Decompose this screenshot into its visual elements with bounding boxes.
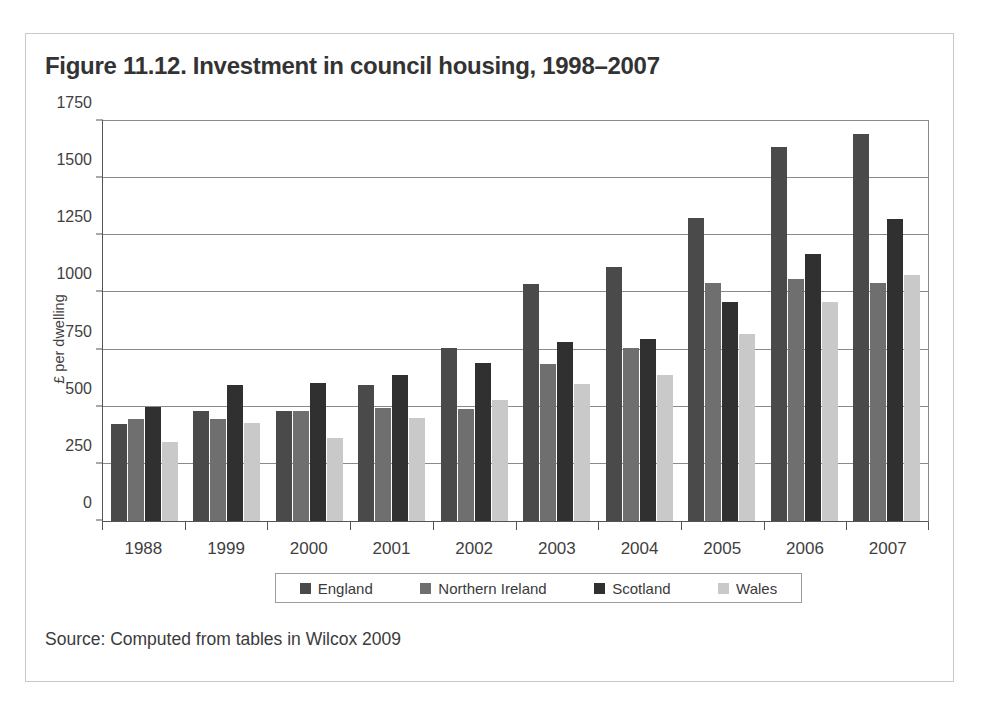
x-axis-label-2005: 2005 (681, 539, 764, 559)
bar-group-2005 (681, 121, 764, 521)
bar-northern-ireland-2006[interactable] (788, 279, 804, 521)
figure-container: Figure 11.12. Investment in council hous… (25, 33, 954, 682)
bar-wales-2001[interactable] (409, 418, 425, 521)
bar-scotland-1988[interactable] (145, 407, 161, 521)
y-axis-tick-mark (96, 348, 103, 349)
bar-scotland-1999[interactable] (227, 385, 243, 521)
bar-northern-ireland-1988[interactable] (128, 419, 144, 521)
bar-england-2004[interactable] (606, 267, 622, 521)
y-axis-tick-mark (96, 291, 103, 292)
bar-scotland-2001[interactable] (392, 375, 408, 521)
x-axis-label-1988: 1988 (102, 539, 185, 559)
bar-northern-ireland-2005[interactable] (705, 283, 721, 521)
bar-wales-2007[interactable] (904, 275, 920, 521)
bar-wales-1999[interactable] (244, 423, 260, 521)
bar-northern-ireland-1999[interactable] (210, 419, 226, 521)
y-axis-tick-label: 750 (65, 323, 92, 341)
bar-england-2007[interactable] (853, 134, 869, 521)
x-axis-tick-1988 (102, 522, 185, 530)
bar-northern-ireland-2002[interactable] (458, 409, 474, 521)
y-axis-tick-label: 250 (65, 437, 92, 455)
bar-group-2003 (516, 121, 599, 521)
bar-england-2003[interactable] (523, 284, 539, 521)
bar-wales-2003[interactable] (574, 384, 590, 521)
bar-group-1988 (103, 121, 186, 521)
x-axis-tick-2006 (764, 522, 847, 530)
legend-swatch-northern-ireland (420, 583, 431, 594)
bar-northern-ireland-2003[interactable] (540, 364, 556, 521)
y-axis-tick-mark (96, 120, 103, 121)
x-axis-label-2006: 2006 (764, 539, 847, 559)
bar-england-1999[interactable] (193, 411, 209, 521)
y-axis-tick-mark (96, 234, 103, 235)
bar-wales-2004[interactable] (657, 375, 673, 521)
y-axis-tick-mark (96, 405, 103, 406)
legend-item-england[interactable]: England (300, 580, 373, 597)
bar-wales-2000[interactable] (327, 438, 343, 521)
bar-scotland-2004[interactable] (640, 339, 656, 521)
y-axis-tick-label: 500 (65, 380, 92, 398)
x-axis-label-2001: 2001 (350, 539, 433, 559)
x-axis-tick-2001 (350, 522, 433, 530)
bar-england-2006[interactable] (771, 147, 787, 521)
bar-england-2001[interactable] (358, 385, 374, 521)
x-axis-label-2004: 2004 (598, 539, 681, 559)
x-axis-label-2000: 2000 (267, 539, 350, 559)
y-axis-tick-mark (96, 177, 103, 178)
legend-swatch-wales (718, 583, 729, 594)
legend-label: Northern Ireland (438, 580, 546, 597)
bar-england-2000[interactable] (276, 411, 292, 521)
x-axis-label-1999: 1999 (185, 539, 268, 559)
legend-swatch-scotland (594, 583, 605, 594)
bar-groups (103, 121, 928, 521)
x-axis-tick-2002 (433, 522, 516, 530)
y-axis-tick-label: 1250 (56, 208, 92, 226)
x-axis-tick-2005 (681, 522, 764, 530)
x-axis-tick-1999 (185, 522, 268, 530)
bar-scotland-2007[interactable] (887, 219, 903, 521)
bar-england-2005[interactable] (688, 218, 704, 521)
legend-item-northern-ireland[interactable]: Northern Ireland (420, 580, 546, 597)
bar-scotland-2002[interactable] (475, 363, 491, 521)
y-axis-tick-mark (96, 462, 103, 463)
x-axis-tick-2000 (267, 522, 350, 530)
legend-label: England (318, 580, 373, 597)
y-axis-tick-label: 1000 (56, 265, 92, 283)
bar-group-2004 (598, 121, 681, 521)
bar-wales-2006[interactable] (822, 302, 838, 521)
plot-area: 02505007501000125015001750 (102, 120, 929, 522)
bar-england-1988[interactable] (111, 424, 127, 521)
bar-scotland-2006[interactable] (805, 254, 821, 521)
bar-northern-ireland-2000[interactable] (293, 411, 309, 521)
x-axis-labels: 1988199920002001200220032004200520062007 (102, 539, 929, 559)
x-axis-label-2003: 2003 (516, 539, 599, 559)
bar-northern-ireland-2004[interactable] (623, 348, 639, 521)
bar-wales-2005[interactable] (739, 334, 755, 521)
bar-group-1999 (186, 121, 269, 521)
bar-group-2006 (763, 121, 846, 521)
y-axis-tick-label: 1750 (56, 94, 92, 112)
bar-scotland-2000[interactable] (310, 383, 326, 521)
bar-wales-1988[interactable] (162, 442, 178, 521)
bar-england-2002[interactable] (441, 348, 457, 521)
x-axis-tick-2007 (846, 522, 929, 530)
bar-group-2001 (351, 121, 434, 521)
x-axis-tick-2004 (598, 522, 681, 530)
bar-northern-ireland-2001[interactable] (375, 408, 391, 521)
legend-label: Scotland (612, 580, 670, 597)
bar-group-2007 (846, 121, 929, 521)
y-axis-tick-label: 0 (83, 494, 92, 512)
x-axis-tick-marks (102, 522, 929, 530)
bar-scotland-2005[interactable] (722, 302, 738, 521)
chart-legend: EnglandNorthern IrelandScotlandWales (275, 573, 802, 603)
source-note: Source: Computed from tables in Wilcox 2… (45, 629, 401, 650)
bar-northern-ireland-2007[interactable] (870, 283, 886, 521)
bar-wales-2002[interactable] (492, 400, 508, 521)
legend-label: Wales (736, 580, 777, 597)
bar-group-2000 (268, 121, 351, 521)
bar-scotland-2003[interactable] (557, 342, 573, 521)
legend-item-wales[interactable]: Wales (718, 580, 777, 597)
legend-swatch-england (300, 583, 311, 594)
legend-item-scotland[interactable]: Scotland (594, 580, 670, 597)
x-axis-tick-2003 (516, 522, 599, 530)
